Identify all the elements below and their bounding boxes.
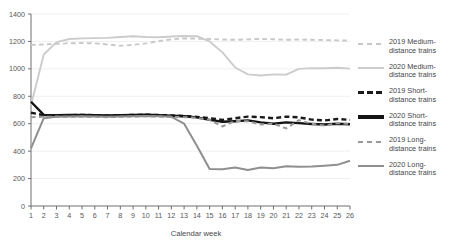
x-axis-tick-label: 21 (282, 211, 290, 220)
x-axis-tick-label: 6 (93, 211, 97, 220)
x-axis-tick-label: 8 (118, 211, 122, 220)
series-line-medium_2020 (31, 36, 350, 105)
x-axis-tick-label: 24 (320, 211, 328, 220)
y-axis-tick-label: 400 (13, 147, 25, 156)
legend-item[interactable]: 2019 Short- distance trains (358, 87, 457, 107)
y-axis-tick-label: 0 (21, 202, 25, 211)
legend-item-label: 2020 Short- distance trains (389, 112, 436, 129)
x-axis-tick-label: 26 (346, 211, 354, 220)
x-axis-tick-label: 3 (55, 211, 59, 220)
y-axis-tick-label: 600 (13, 119, 25, 128)
x-axis-tick-label: 19 (257, 211, 265, 220)
x-axis-tick-label: 4 (67, 211, 71, 220)
y-axis: 0200400600800100012001400 (9, 10, 31, 211)
legend-item[interactable]: 2020 Short- distance trains (358, 112, 457, 132)
x-axis-tick-label: 13 (180, 211, 188, 220)
x-axis-tick-label: 1 (29, 211, 33, 220)
series-line-short_2020 (31, 102, 350, 125)
legend-item-label: 2019 Medium- distance trains (389, 38, 436, 55)
x-axis-tick-label: 12 (167, 211, 175, 220)
x-axis-tick-label: 14 (193, 211, 201, 220)
y-axis-tick-label: 1000 (9, 64, 25, 73)
y-axis-tick-label: 200 (13, 174, 25, 183)
x-axis-title: Calendar week (171, 229, 222, 238)
legend-item[interactable]: 2020 Medium- distance trains (358, 63, 457, 83)
legend-swatch-icon (358, 39, 384, 48)
legend-item-label: 2020 Medium- distance trains (389, 63, 436, 80)
legend-swatch-icon (358, 64, 384, 73)
legend-item[interactable]: 2020 Long- distance trains (358, 161, 457, 181)
legend-swatch-icon (358, 162, 384, 171)
x-axis-tick-label: 18 (244, 211, 252, 220)
legend-item-label: 2019 Long- distance trains (389, 136, 436, 153)
y-axis-tick-label: 800 (13, 92, 25, 101)
series-line-medium_2019 (31, 38, 350, 45)
x-axis-tick-label: 16 (218, 211, 226, 220)
x-axis-tick-label: 17 (231, 211, 239, 220)
legend-item[interactable]: 2019 Long- distance trains (358, 136, 457, 156)
x-axis-tick-label: 11 (155, 211, 162, 220)
data-series-group (31, 36, 350, 170)
x-axis-tick-label: 22 (295, 211, 303, 220)
x-axis-tick-label: 20 (269, 211, 277, 220)
legend-item-label: 2019 Short- distance trains (389, 87, 436, 104)
x-axis-tick-label: 25 (333, 211, 341, 220)
legend-swatch-icon (358, 88, 384, 97)
chart-legend: 2019 Medium- distance trains2020 Medium-… (358, 38, 457, 185)
x-axis-tick-label: 7 (106, 211, 110, 220)
x-axis-tick-label: 5 (80, 211, 84, 220)
x-axis-tick-label: 9 (131, 211, 135, 220)
x-axis-tick-label: 10 (142, 211, 150, 220)
y-axis-tick-label: 1200 (9, 37, 25, 46)
x-axis: 1234567891011121314151617181920212223242… (29, 206, 354, 220)
legend-item[interactable]: 2019 Medium- distance trains (358, 38, 457, 58)
y-axis-tick-label: 1400 (9, 10, 25, 19)
x-axis-tick-label: 15 (206, 211, 214, 220)
legend-swatch-icon (358, 137, 384, 146)
line-chart: 0200400600800100012001400 12345678910111… (0, 0, 457, 243)
x-axis-tick-label: 23 (308, 211, 316, 220)
legend-item-label: 2020 Long- distance trains (389, 161, 436, 178)
legend-swatch-icon (358, 113, 384, 122)
x-axis-tick-label: 2 (42, 211, 46, 220)
